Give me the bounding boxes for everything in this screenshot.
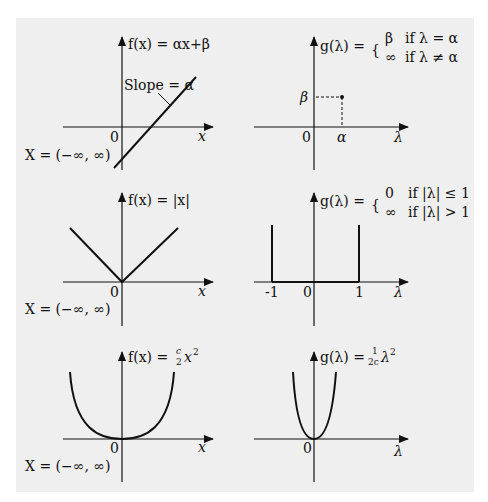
x-axis-label: λ (393, 129, 403, 145)
tick-0: 0 (303, 284, 312, 300)
f-title-var: x (184, 349, 192, 365)
annotation-leader (158, 93, 170, 105)
brace: { (371, 42, 380, 58)
panel-f-linear: f(x) = αx+β Slope = α 0 x X = (−∞, ∞) (25, 36, 213, 170)
case-2-cond: if |λ| > 1 (408, 204, 470, 221)
g-title-sup: 2 (390, 347, 396, 357)
domain-label: X = (−∞, ∞) (25, 301, 110, 317)
domain-label: X = (−∞, ∞) (25, 458, 110, 474)
f-title-sup: 2 (193, 347, 199, 357)
beta-tick: β (299, 89, 308, 105)
origin-label: 0 (302, 129, 311, 145)
origin-label: 0 (110, 440, 119, 456)
alpha-tick: α (337, 129, 347, 145)
tick-1: 1 (355, 284, 364, 300)
f-title: f(x) = |x| (128, 192, 190, 209)
frac-num: c (176, 346, 181, 356)
g-title-lhs: g(λ) = (320, 38, 365, 54)
origin-label: 0 (110, 129, 119, 145)
f-title-lhs: f(x) = (128, 349, 168, 365)
x-axis-label: λ (393, 284, 403, 300)
origin-label: 0 (110, 284, 119, 300)
point-alpha-beta (340, 95, 344, 99)
case-1-value: 0 (385, 185, 394, 201)
case-1-value: β (385, 30, 393, 46)
abs-curve (70, 228, 178, 282)
origin-label: 0 (303, 440, 312, 456)
x-axis-label: x (198, 283, 206, 299)
panel-g-abs: g(λ) = { 0 if |λ| ≤ 1 ∞ if |λ| > 1 -1 0 … (254, 185, 470, 326)
f-title: f(x) = αx+β (128, 36, 210, 52)
conjugate-functions-figure: f(x) = αx+β Slope = α 0 x X = (−∞, ∞) g(… (0, 0, 488, 502)
x-axis-label: x (198, 439, 206, 455)
panel-g-linear: g(λ) = { β if λ = α ∞ if λ ≠ α β α 0 λ (254, 30, 459, 170)
g-title-var: λ (380, 349, 390, 365)
g-title-lhs: g(λ) = (320, 193, 365, 209)
x-axis-label: λ (393, 443, 403, 459)
panel-f-abs: f(x) = |x| 0 x X = (−∞, ∞) (25, 192, 213, 326)
case-2-value: ∞ (385, 204, 397, 220)
slope-annotation: Slope = α (124, 77, 194, 93)
frac-den: 2c (368, 357, 379, 367)
tick-neg1: -1 (265, 284, 279, 300)
x-axis-label: x (198, 128, 206, 144)
panel-f-quad: f(x) = c 2 x 2 0 x X = (−∞, ∞) (25, 346, 213, 482)
case-1-cond: if |λ| ≤ 1 (408, 185, 470, 202)
frac-num: 1 (372, 346, 378, 356)
case-1-cond: if λ = α (405, 30, 459, 46)
g-title-lhs: g(λ) = (320, 349, 365, 365)
panel-g-quad: g(λ) = 1 2c λ 2 0 λ (254, 346, 408, 482)
brace: { (371, 197, 380, 213)
frac-den: 2 (176, 357, 182, 367)
case-2-cond: if λ ≠ α (405, 49, 459, 65)
domain-label: X = (−∞, ∞) (25, 147, 110, 163)
case-2-value: ∞ (385, 49, 397, 65)
